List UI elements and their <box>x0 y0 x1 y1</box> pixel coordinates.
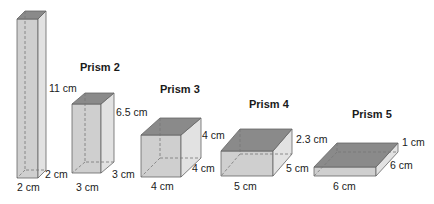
prism-4-title: Prism 4 <box>249 99 289 110</box>
prism-4-depth-label: 5 cm <box>286 163 309 174</box>
prism-1-depth-label: 2 cm <box>45 169 68 180</box>
prism-3-depth-label: 4 cm <box>192 163 215 174</box>
prism-2-width-label: 3 cm <box>76 182 99 193</box>
prism-5-title: Prism 5 <box>352 109 392 120</box>
prism-2-depth-label: 3 cm <box>112 169 135 180</box>
prism-2-title: Prism 2 <box>80 62 120 73</box>
prism-1-width-label: 2 cm <box>17 182 40 193</box>
prism-3-width-label: 4 cm <box>151 181 174 192</box>
prism-5-width-label: 6 cm <box>333 181 356 192</box>
prism-1-height-label: 11 cm <box>49 83 77 94</box>
prism-2-height-label: 6.5 cm <box>116 107 148 118</box>
prism-5-height-label: 1 cm <box>402 137 425 148</box>
prism-4-width-label: 5 cm <box>234 181 257 192</box>
prism-3-height-label: 4 cm <box>202 130 225 141</box>
prism-4-height-label: 2.3 cm <box>296 134 328 145</box>
prism-5-shape <box>314 143 398 176</box>
prism-diagram: 11 cm 2 cm 2 cm Prism 2 6.5 cm 3 cm 3 cm… <box>0 0 434 204</box>
prism-3-title: Prism 3 <box>160 84 200 95</box>
prism-1-shape <box>17 11 46 178</box>
prism-4-shape <box>221 129 292 176</box>
prism-5-depth-label: 6 cm <box>390 160 413 171</box>
prism-2-shape <box>72 93 114 173</box>
